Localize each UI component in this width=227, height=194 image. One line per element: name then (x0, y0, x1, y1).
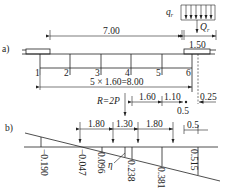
eta-leader (114, 153, 125, 163)
dim-1-60: 1.60 (139, 92, 156, 102)
load-Q-label: Qr (200, 22, 210, 33)
dim-0-25: 0.25 (200, 92, 217, 102)
ordinate-2: −0.047 (77, 149, 87, 176)
girder-label-5: 5 (156, 68, 161, 78)
resultant-label: R=2P (96, 96, 120, 106)
ordinate-5: 0.381 (156, 167, 166, 189)
dim-sidewalk-text: 1.50 (189, 40, 206, 50)
dim-span-text: 7.00 (103, 26, 120, 36)
dim-0-5-upper: 0.5 (177, 106, 189, 116)
ordinate-6: 0.515 (189, 149, 199, 171)
dim-1-10: 1.10 (164, 92, 181, 102)
dim-b-4: 0.5 (187, 120, 199, 130)
dim-girder-spacing-text: 5 × 1.60=8.00 (90, 77, 144, 87)
eta-label: η (108, 160, 113, 170)
dim-b-2: 1.30 (116, 119, 133, 129)
ordinate-1: −0.190 (39, 149, 49, 176)
part-b-label: b) (5, 123, 13, 134)
dim-b-1: 1.80 (88, 119, 105, 129)
load-q-label: qr (166, 7, 174, 18)
ordinate-3: 0.096 (96, 152, 106, 174)
ordinate-4: 0.238 (126, 160, 136, 182)
distributed-load (181, 5, 215, 20)
girder-label-1: 1 (35, 68, 40, 78)
part-a-label: a) (2, 44, 9, 55)
bridge-load-diagram: a) qr Qr 7.00 1.50 (0, 0, 227, 194)
bridge-deck (22, 49, 216, 68)
girder-label-6: 6 (186, 68, 191, 78)
girder-label-2: 2 (64, 68, 69, 78)
dim-b-3: 1.80 (146, 119, 163, 129)
